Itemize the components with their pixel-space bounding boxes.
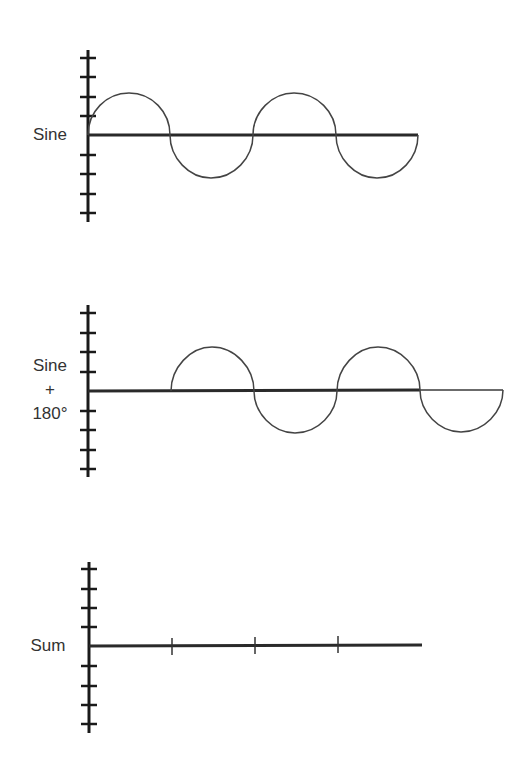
label-sine-180: Sine + 180°	[26, 356, 74, 424]
label-sine: Sine	[26, 125, 74, 145]
label-line: Sum	[24, 636, 72, 656]
panel-sine-180	[80, 305, 503, 477]
label-line: Sine	[26, 125, 74, 145]
label-line: +	[26, 380, 74, 400]
phase-cancellation-diagram	[0, 0, 523, 775]
label-sum: Sum	[24, 636, 72, 656]
label-line: 180°	[26, 404, 74, 424]
panel-sum	[81, 562, 422, 733]
panel-sine	[80, 50, 418, 222]
label-line: Sine	[26, 356, 74, 376]
